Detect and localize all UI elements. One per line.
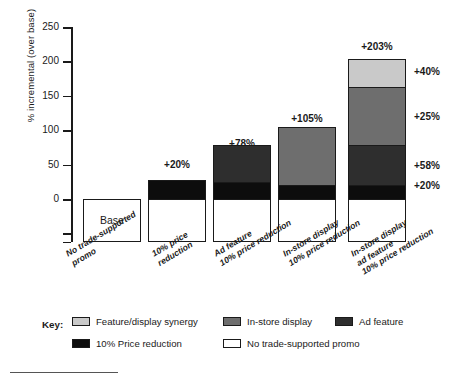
legend-label-in-store-display: In-store display: [247, 316, 312, 327]
legend-swatch-ad-feature: [335, 317, 353, 326]
bar-total-2: +20%: [148, 159, 206, 170]
y-tick-100: [63, 130, 71, 132]
legend-item-in-store-display: In-store display: [223, 316, 312, 327]
y-tick-label-200: 200: [25, 55, 59, 66]
y-tick-minus50: [63, 233, 71, 235]
legend-item-synergy: Feature/display synergy: [72, 316, 198, 327]
legend-label-base: No trade-supported promo: [247, 338, 360, 349]
legend-key-label: Key:: [42, 319, 63, 330]
callout-ad-feature: +58%: [414, 160, 440, 171]
bar-segment-ad-feature-3: [213, 145, 271, 182]
callout-synergy: +40%: [414, 66, 440, 77]
legend-swatch-in-store-display: [223, 317, 241, 326]
chart-container: % incremental (over base) 250 200 150 10…: [0, 0, 454, 382]
bar-segment-price-reduction-5: [348, 185, 406, 199]
y-tick-label-250: 250: [25, 21, 59, 32]
bar-segment-synergy-5: [348, 59, 406, 87]
callout-in-store-display: +25%: [414, 111, 440, 122]
legend-swatch-base: [223, 339, 241, 348]
y-tick-0: [63, 199, 71, 201]
bar-segment-price-reduction-3: [213, 182, 271, 199]
bar-segment-ad-feature-5: [348, 145, 406, 185]
legend-item-ad-feature: Ad feature: [335, 316, 403, 327]
legend-label-ad-feature: Ad feature: [359, 316, 403, 327]
bar-segment-price-reduction-2: [148, 180, 206, 199]
legend-item-base: No trade-supported promo: [223, 338, 360, 349]
bar-segment-in-store-display-4: [278, 127, 336, 185]
legend-swatch-price-reduction: [72, 339, 90, 348]
bar-segment-in-store-display-5: [348, 87, 406, 146]
footer-divider: [10, 372, 118, 373]
bar-total-4: +105%: [278, 113, 336, 124]
y-tick-label-150: 150: [25, 90, 59, 101]
y-tick-label-0: 0: [25, 193, 59, 204]
y-axis-line: [71, 27, 73, 242]
legend-item-price-reduction: 10% Price reduction: [72, 338, 182, 349]
legend-swatch-synergy: [72, 317, 90, 326]
y-tick-250: [63, 27, 71, 29]
y-tick-150: [63, 96, 71, 98]
y-tick-minus100: [63, 242, 71, 244]
bar-total-5: +203%: [348, 41, 406, 52]
bar-group-5: [348, 59, 406, 242]
y-tick-label-50: 50: [25, 159, 59, 170]
bar-segment-price-reduction-4: [278, 185, 336, 199]
legend-label-synergy: Feature/display synergy: [96, 316, 198, 327]
legend-label-price-reduction: 10% Price reduction: [96, 338, 182, 349]
y-tick-50: [63, 165, 71, 167]
callout-price-reduction: +20%: [414, 180, 440, 191]
y-tick-200: [63, 61, 71, 63]
y-tick-label-100: 100: [25, 124, 59, 135]
